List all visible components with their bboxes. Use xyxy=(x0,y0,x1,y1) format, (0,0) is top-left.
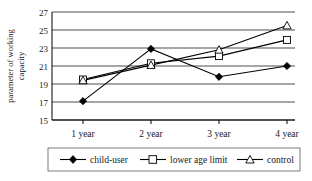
y-tick-label-21: 21 xyxy=(39,62,48,72)
data-point-lower-age-limit-3-year xyxy=(216,53,223,60)
open-square-icon xyxy=(149,156,157,164)
y-tick-label-19: 19 xyxy=(39,80,49,90)
legend-item-lower-age-limit[interactable]: lower age limit xyxy=(140,155,228,165)
legend-label-lower-age-limit: lower age limit xyxy=(170,155,228,165)
data-point-lower-age-limit-4-year xyxy=(284,36,291,43)
x-tick-label-3: 3 year xyxy=(207,129,231,139)
x-tick-label-1: 1 year xyxy=(71,129,95,139)
y-tick-label-17: 17 xyxy=(39,98,49,108)
chart-figure: parameter of working capacity 27 25 23 2… xyxy=(0,0,312,181)
y-tick-label-23: 23 xyxy=(39,44,49,54)
line-chart: parameter of working capacity 27 25 23 2… xyxy=(0,0,312,181)
y-axis-label-line1: parameter of working xyxy=(5,28,15,102)
legend-label-control: control xyxy=(267,155,294,165)
y-tick-label-27: 27 xyxy=(39,8,49,18)
chart-legend: child-user lower age limit control xyxy=(48,148,300,171)
y-tick-label-25: 25 xyxy=(39,26,49,36)
legend-label-child-user: child-user xyxy=(90,155,129,165)
y-tick-label-15: 15 xyxy=(39,116,49,126)
y-axis-label-line2: capacity xyxy=(16,51,26,80)
x-tick-label-4: 4 year xyxy=(275,129,299,139)
x-tick-label-2: 2 year xyxy=(139,129,163,139)
